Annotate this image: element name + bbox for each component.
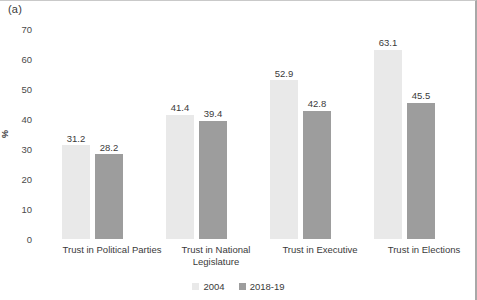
y-tick-40: 40: [21, 114, 32, 125]
y-axis-title: %: [0, 130, 10, 138]
legend-swatch-icon: [239, 283, 246, 290]
panel-label: (a): [8, 3, 22, 15]
bar-rect: [374, 50, 402, 239]
y-tick-70: 70: [21, 24, 32, 35]
bar-value-label: 63.1: [379, 37, 398, 48]
legend: 2004 2018-19: [0, 281, 477, 292]
bar-value-label: 28.2: [100, 142, 119, 153]
x-label-line: Trust in Elections: [354, 244, 477, 256]
legend-label: 2004: [203, 281, 224, 292]
y-tick-50: 50: [21, 84, 32, 95]
legend-swatch-icon: [192, 283, 199, 290]
bar-rect: [407, 103, 435, 240]
bar-rect: [95, 154, 123, 239]
bar-rect: [166, 115, 194, 239]
y-tick-30: 30: [21, 144, 32, 155]
bar-rect: [270, 80, 298, 239]
bar-group-political-parties: 31.2 28.2: [62, 29, 128, 239]
bar-group-executive: 52.9 42.8: [270, 29, 336, 239]
bar-value-label: 39.4: [204, 108, 223, 119]
bar-group-elections: 63.1 45.5: [374, 29, 440, 239]
x-label-line: Legislature: [146, 256, 286, 268]
legend-item-2004[interactable]: 2004: [192, 281, 224, 292]
legend-item-2018-19[interactable]: 2018-19: [239, 281, 285, 292]
bar-rect: [199, 121, 227, 239]
bar-value-label: 31.2: [67, 133, 86, 144]
figure-panel: (a) 70 60 50 40 30 20 10 0 % 31.2 28.2: [0, 0, 477, 300]
y-tick-20: 20: [21, 174, 32, 185]
plot-area: 31.2 28.2 41.4 39.4 52.9: [40, 29, 468, 239]
legend-label: 2018-19: [250, 281, 285, 292]
bar-rect: [303, 111, 331, 239]
y-tick-60: 60: [21, 54, 32, 65]
x-label-elections: Trust in Elections: [354, 244, 477, 256]
y-tick-10: 10: [21, 204, 32, 215]
bar-rect: [62, 145, 90, 239]
bar-value-label: 52.9: [275, 68, 294, 79]
bar-value-label: 41.4: [171, 102, 190, 113]
bar-group-national-legislature: 41.4 39.4: [166, 29, 232, 239]
y-tick-0: 0: [27, 234, 32, 245]
bar-value-label: 45.5: [412, 90, 431, 101]
bar-value-label: 42.8: [308, 98, 327, 109]
